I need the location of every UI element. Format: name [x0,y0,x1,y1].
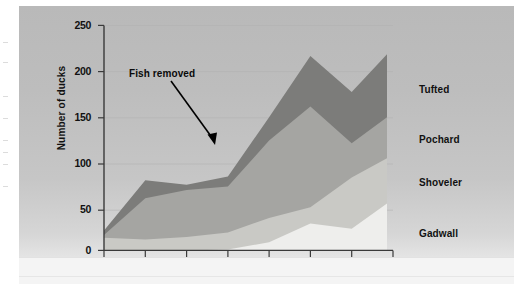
y-tick-label-0: 0 [61,244,91,256]
x-tick-marks [104,250,393,257]
scan-margin [0,0,19,298]
y-tick-label-150: 150 [61,111,91,123]
figure-footer-strip [19,257,514,284]
y-tick-label-200: 200 [61,65,91,77]
series-label-tufted: Tufted [419,84,449,95]
fish-removed-arrow [171,81,217,145]
y-tick-label-50: 50 [61,203,91,215]
y-tick-marks [98,25,104,250]
series-label-gadwall: Gadwall [419,228,458,239]
chart-screenshot: Number of ducks 250 200 150 100 50 0 198… [0,0,525,298]
plot-area: Number of ducks 250 200 150 100 50 0 198… [19,6,514,284]
y-tick-label-250: 250 [61,19,91,31]
series-label-shoveler: Shoveler [419,177,462,188]
stacked-area-svg [19,6,514,284]
y-tick-label-100: 100 [61,157,91,169]
fish-removed-label: Fish removed [129,68,195,79]
series-label-pochard: Pochard [419,134,460,145]
chart-figure: Number of ducks 250 200 150 100 50 0 198… [19,6,514,284]
